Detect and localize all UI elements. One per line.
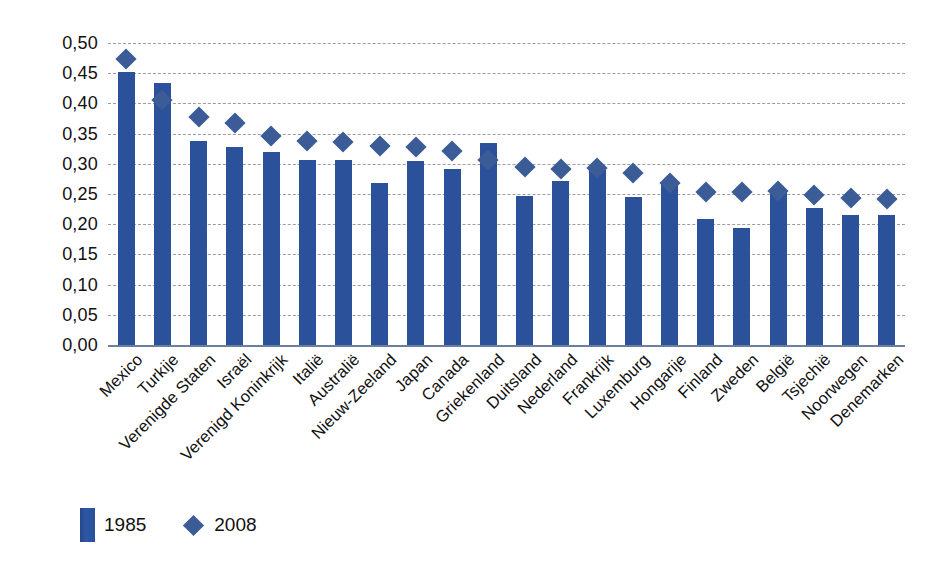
y-tick-label: 0,05: [62, 304, 98, 325]
data-point-marker: [840, 188, 861, 209]
data-point-marker: [550, 158, 571, 179]
y-tick-label: 0,15: [62, 244, 98, 265]
y-tick-label: 0,45: [62, 63, 98, 84]
legend-label: 2008: [214, 514, 256, 536]
data-point-marker: [768, 180, 789, 201]
data-point-marker: [116, 49, 137, 70]
plot-area: [108, 43, 905, 345]
y-tick-label: 0,25: [62, 184, 98, 205]
x-tick-label: Mexico: [96, 350, 147, 401]
data-point-marker: [876, 189, 897, 210]
legend-label: 1985: [104, 514, 146, 536]
data-point-marker: [695, 181, 716, 202]
y-tick-label: 0,40: [62, 93, 98, 114]
data-point-marker: [152, 90, 173, 111]
data-point-marker: [405, 136, 426, 157]
y-tick-label: 0,50: [62, 33, 98, 54]
data-point-marker: [514, 156, 535, 177]
data-point-marker: [224, 112, 245, 133]
data-point-marker: [297, 131, 318, 152]
legend-item[interactable]: 1985: [80, 508, 146, 542]
data-point-marker: [333, 131, 354, 152]
y-tick-label: 0,35: [62, 123, 98, 144]
data-point-marker: [731, 181, 752, 202]
data-point-marker: [586, 157, 607, 178]
y-tick-label: 0,10: [62, 274, 98, 295]
data-point-marker: [188, 106, 209, 127]
legend-item[interactable]: 2008: [182, 514, 256, 536]
points-layer: [108, 43, 905, 345]
data-point-marker: [478, 149, 499, 170]
data-point-marker: [369, 135, 390, 156]
data-point-marker: [442, 140, 463, 161]
y-tick-label: 0,00: [62, 335, 98, 356]
chart-legend: 19852008: [80, 508, 257, 542]
y-tick-label: 0,20: [62, 214, 98, 235]
data-point-marker: [623, 162, 644, 183]
legend-bar-swatch-icon: [80, 508, 95, 542]
y-tick-label: 0,30: [62, 153, 98, 174]
legend-diamond-swatch-icon: [183, 514, 204, 535]
y-axis: 0,500,450,400,350,300,250,200,150,100,05…: [30, 43, 98, 345]
data-point-marker: [260, 125, 281, 146]
x-axis-labels: MexicoTurkijeVerenigde StatenIsraëlVeren…: [108, 350, 905, 500]
chart-container: 0,500,450,400,350,300,250,200,150,100,05…: [0, 0, 925, 575]
data-point-marker: [804, 184, 825, 205]
data-point-marker: [659, 173, 680, 194]
gridline-0,00: [108, 345, 905, 347]
